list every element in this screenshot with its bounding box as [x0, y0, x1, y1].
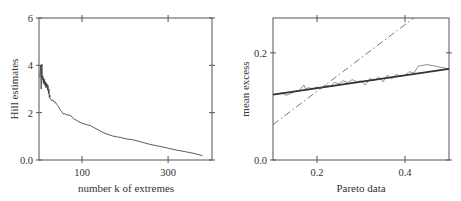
y-tick-label: 0.0: [254, 155, 267, 166]
hill-plot-ticks: [36, 15, 215, 163]
y-tick-label: 2: [28, 108, 33, 119]
x-tick-label: 0.2: [310, 167, 323, 178]
fitted-solid-line: [273, 69, 449, 95]
mean-excess-plot-frame: [273, 18, 449, 160]
figure: 100 300 0.0 2 4 6 number k of extremes H…: [0, 0, 461, 201]
y-tick-label: 6: [28, 13, 33, 24]
y-tick-label: 0.0: [20, 155, 33, 166]
x-axis-title: number k of extremes: [78, 182, 174, 194]
x-tick-label: 0.4: [398, 167, 412, 178]
x-tick-label: 100: [74, 167, 90, 178]
y-tick-label: 4: [28, 60, 34, 71]
hill-plot: 100 300 0.0 2 4 6 number k of extremes H…: [8, 13, 215, 194]
x-tick-label: 300: [160, 167, 176, 178]
y-tick-label: 0.2: [254, 48, 267, 59]
y-axis-title: mean excess: [239, 61, 251, 116]
reference-dash-dot-line: [273, 18, 414, 125]
mean-excess-plot-ticks: [270, 15, 452, 163]
x-axis-title: Pareto data: [336, 182, 385, 194]
hill-estimates-line: [40, 64, 203, 156]
y-axis-title: Hill estimates: [8, 59, 20, 120]
mean-excess-plot: 0.2 0.4 0.0 0.2 Pareto data mean excess: [239, 15, 452, 194]
